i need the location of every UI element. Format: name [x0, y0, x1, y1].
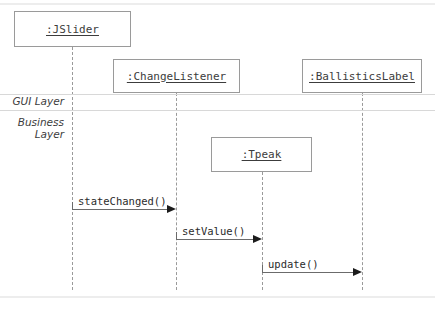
participant-ballisticslabel[interactable]: :BallisticsLabel: [302, 59, 422, 93]
layer-label-business-line1: Business: [18, 116, 64, 128]
participant-jslider[interactable]: :JSlider: [14, 11, 131, 47]
top-band-rule: [0, 3, 435, 5]
message-label-statechanged: stateChanged(): [78, 195, 167, 207]
bottom-band-rule: [0, 296, 435, 298]
gui-business-layer-divider: [0, 110, 435, 111]
lifeline-ballisticslabel: [362, 93, 363, 290]
gui-band-top-divider: [0, 94, 435, 95]
layer-label-business-line2: Layer: [35, 128, 64, 140]
participant-changelistener[interactable]: :ChangeListener: [113, 59, 240, 93]
message-label-update: update(): [268, 258, 319, 270]
participant-jslider-label: :JSlider: [46, 23, 99, 36]
layer-label-business: Business Layer: [8, 116, 64, 140]
sequence-diagram-canvas: GUI Layer Business Layer :JSlider :Chang…: [0, 0, 435, 314]
participant-tpeak-label: :Tpeak: [242, 148, 282, 161]
message-label-setvalue: setValue(): [182, 225, 245, 237]
message-line-statechanged[interactable]: [72, 209, 168, 210]
message-arrowhead-statechanged: [167, 205, 176, 213]
layer-label-gui-text: GUI Layer: [12, 95, 64, 107]
participant-changelistener-label: :ChangeListener: [127, 70, 226, 83]
message-line-update[interactable]: [262, 272, 354, 273]
lifeline-jslider: [72, 47, 73, 290]
message-arrowhead-setvalue: [253, 235, 262, 243]
participant-ballisticslabel-label: :BallisticsLabel: [309, 70, 415, 83]
message-line-setvalue[interactable]: [176, 239, 254, 240]
lifeline-changelistener: [176, 93, 177, 290]
participant-tpeak[interactable]: :Tpeak: [211, 137, 312, 172]
message-arrowhead-update: [353, 268, 362, 276]
layer-label-gui: GUI Layer: [8, 95, 64, 107]
